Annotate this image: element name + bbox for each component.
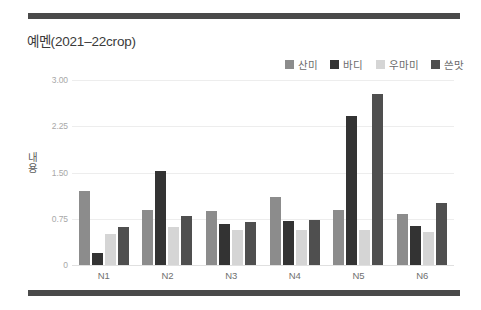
bar[interactable] [436,203,447,265]
bar[interactable] [232,230,243,265]
bar[interactable] [79,191,90,265]
bar[interactable] [181,216,192,265]
plot-wrapper: 내용 00.751.502.253.00 N1N2N3N4N5N6 [0,0,481,310]
gridline [72,265,454,266]
bar[interactable] [359,230,370,265]
y-axis-tick-label: 0 [42,260,68,270]
bar[interactable] [168,227,179,265]
bar[interactable] [309,220,320,265]
x-axis-tick-label: N4 [289,270,301,281]
x-axis-tick-label: N5 [353,270,365,281]
bar[interactable] [423,232,434,265]
plot-area [72,80,454,265]
y-axis-tick-label: 2.25 [42,121,68,131]
y-axis-tick-label: 0.75 [42,214,68,224]
y-axis-tick-label: 1.50 [42,168,68,178]
bottom-divider-rule [28,290,460,296]
bar[interactable] [142,210,153,266]
bar[interactable] [410,226,421,265]
x-axis-tick-label: N1 [98,270,110,281]
bar[interactable] [372,94,383,265]
bar[interactable] [397,214,408,265]
bar-group [199,80,263,265]
x-axis-tick-label: N3 [225,270,237,281]
bar[interactable] [92,253,103,265]
bar-group [390,80,454,265]
bar[interactable] [155,171,166,265]
bar[interactable] [296,230,307,265]
bar-group [263,80,327,265]
bar-group [72,80,136,265]
bar[interactable] [206,211,217,265]
bar[interactable] [118,227,129,265]
bar[interactable] [346,116,357,265]
bar[interactable] [219,224,230,265]
bar[interactable] [283,221,294,265]
chart-page: 예멘(2021–22crop) 산미바디우마미쓴맛 내용 00.751.502.… [0,0,481,310]
bar[interactable] [105,234,116,265]
bar[interactable] [333,210,344,266]
bar[interactable] [245,222,256,265]
x-axis-tick-label: N6 [416,270,428,281]
bar[interactable] [270,197,281,265]
y-axis-title-char: 용 [26,163,40,174]
x-axis-tick-label: N2 [162,270,174,281]
bar-group [136,80,200,265]
bar-group [327,80,391,265]
y-axis-title: 내용 [26,152,40,173]
y-axis-tick-label: 3.00 [42,75,68,85]
